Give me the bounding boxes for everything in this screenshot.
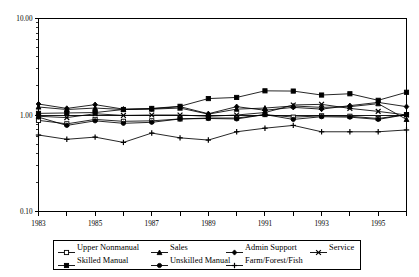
data-point-marker	[404, 112, 408, 116]
data-point-marker	[235, 95, 239, 99]
legend-label: Admin Support	[245, 243, 297, 252]
legend-row: Upper NonmanualSalesAdmin SupportService	[58, 242, 356, 255]
series-polyline	[39, 125, 407, 142]
x-axis-tick-label: 1993	[314, 220, 329, 228]
data-point-marker	[262, 125, 267, 130]
data-point-marker	[93, 102, 98, 107]
data-point-marker	[36, 132, 41, 137]
legend-marker-filled-circle-icon	[151, 261, 168, 270]
data-point-marker	[178, 104, 182, 108]
legend-label: Sales	[170, 243, 188, 252]
legend-label: Skilled Manual	[77, 256, 128, 265]
data-point-marker	[232, 250, 237, 255]
y-axis-tick-label: 1.00	[20, 112, 33, 120]
legend-item-farm-forest-fish[interactable]: Farm/Forest/Fish	[226, 256, 303, 265]
legend-swatch	[58, 243, 75, 252]
data-point-marker	[319, 93, 323, 97]
data-point-marker	[319, 129, 324, 134]
x-axis-tick-label: 1985	[88, 220, 103, 228]
legend-label: Unskilled Manual	[170, 256, 230, 265]
data-point-marker	[157, 250, 162, 255]
x-axis-tick-label: 1987	[145, 220, 160, 228]
data-point-marker	[232, 263, 237, 268]
data-point-marker	[36, 101, 41, 106]
x-axis-tick-label: 1983	[31, 220, 46, 228]
data-point-marker	[404, 90, 408, 94]
data-point-marker	[348, 92, 352, 96]
data-point-marker	[149, 130, 154, 135]
legend-item-service[interactable]: Service	[310, 243, 354, 252]
data-point-marker	[92, 134, 97, 139]
data-point-marker	[93, 110, 97, 114]
data-point-marker	[121, 140, 126, 145]
data-point-marker	[263, 89, 267, 93]
data-point-marker	[150, 106, 154, 110]
legend-item-upper-nonmanual[interactable]: Upper Nonmanual	[58, 243, 139, 252]
data-point-marker	[65, 123, 69, 127]
legend-item-skilled-manual[interactable]: Skilled Manual	[58, 256, 128, 265]
data-point-marker	[291, 117, 295, 121]
data-point-marker	[121, 107, 125, 111]
data-point-marker	[404, 127, 409, 132]
data-point-marker	[375, 129, 380, 134]
data-point-marker	[234, 129, 239, 134]
chart-legend: Upper NonmanualSalesAdmin SupportService…	[53, 240, 361, 270]
x-axis-tick-label: 1989	[201, 220, 216, 228]
data-point-marker	[64, 137, 69, 142]
data-point-marker	[64, 250, 68, 254]
x-axis-tick-label: 1995	[371, 220, 386, 228]
legend-swatch	[226, 243, 243, 252]
legend-swatch	[58, 256, 75, 265]
legend-marker-filled-square-icon	[58, 261, 75, 270]
legend-item-sales[interactable]: Sales	[151, 243, 188, 252]
data-series	[36, 123, 409, 145]
data-point-marker	[319, 115, 323, 119]
data-point-marker	[65, 111, 69, 115]
line-chart-plot: 10.001.000.10198319851987198919911993199…	[0, 0, 419, 277]
chart-container: 10.001.000.10198319851987198919911993199…	[0, 0, 419, 277]
data-point-marker	[376, 98, 380, 102]
data-point-marker	[291, 89, 295, 93]
legend-swatch	[151, 243, 168, 252]
data-point-marker	[348, 115, 352, 119]
data-point-marker	[206, 116, 210, 120]
data-point-marker	[263, 112, 267, 116]
legend-label: Upper Nonmanual	[77, 243, 139, 252]
data-point-marker	[64, 263, 68, 267]
data-point-marker	[93, 119, 97, 123]
legend-swatch	[310, 243, 327, 252]
data-point-marker	[206, 96, 210, 100]
legend-label: Service	[329, 243, 354, 252]
legend-swatch	[151, 256, 168, 265]
legend-item-unskilled-manual[interactable]: Unskilled Manual	[151, 256, 230, 265]
legend-item-admin-support[interactable]: Admin Support	[226, 243, 297, 252]
y-axis-tick-label: 10.00	[16, 15, 33, 23]
x-axis-tick-label: 1991	[258, 220, 273, 228]
legend-swatch	[226, 256, 243, 265]
data-point-marker	[376, 117, 380, 121]
legend-marker-plus-icon	[226, 261, 243, 270]
data-point-marker	[36, 115, 40, 119]
data-point-marker	[291, 123, 296, 128]
data-point-marker	[234, 104, 239, 109]
data-point-marker	[404, 104, 409, 109]
data-point-marker	[150, 120, 154, 124]
data-point-marker	[178, 117, 182, 121]
data-point-marker	[404, 117, 409, 122]
data-point-marker	[177, 135, 182, 140]
y-axis-tick-label: 0.10	[20, 208, 33, 216]
legend-label: Farm/Forest/Fish	[245, 256, 303, 265]
data-point-marker	[206, 137, 211, 142]
data-point-marker	[157, 263, 161, 267]
data-point-marker	[235, 117, 239, 121]
data-point-marker	[121, 121, 125, 125]
legend-marker-cross-x-icon	[310, 248, 327, 257]
data-point-marker	[347, 129, 352, 134]
